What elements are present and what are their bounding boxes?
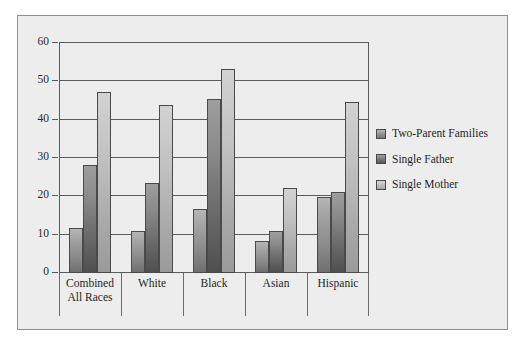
category-axis-labels: CombinedAll RacesWhiteBlackAsianHispanic bbox=[59, 273, 369, 316]
y-tick-20 bbox=[52, 195, 58, 196]
bar bbox=[317, 197, 331, 273]
bar bbox=[193, 209, 207, 273]
category-separator bbox=[59, 273, 60, 316]
category-label: Hispanic bbox=[307, 273, 369, 316]
y-tick-label-30: 30 bbox=[38, 151, 50, 163]
category-separator bbox=[307, 273, 308, 316]
bar-group bbox=[245, 42, 307, 273]
bar bbox=[255, 241, 269, 273]
legend-item[interactable]: Single Mother bbox=[376, 179, 506, 191]
bar bbox=[69, 228, 83, 273]
category-label-line: Black bbox=[183, 277, 245, 291]
y-tick-0 bbox=[52, 272, 58, 273]
bar bbox=[269, 231, 283, 273]
bar-group bbox=[183, 42, 245, 273]
category-label-line: Hispanic bbox=[307, 277, 369, 291]
legend-swatch-icon bbox=[376, 154, 386, 164]
legend-swatch-icon bbox=[376, 180, 386, 190]
legend-item[interactable]: Two-Parent Families bbox=[376, 128, 506, 140]
category-label: CombinedAll Races bbox=[59, 273, 121, 316]
bar-groups bbox=[59, 42, 369, 273]
bar bbox=[83, 165, 97, 273]
category-label-line: Asian bbox=[245, 277, 307, 291]
bar-group bbox=[121, 42, 183, 273]
bar bbox=[159, 105, 173, 273]
bar bbox=[131, 231, 145, 273]
plot-area: 0102030405060 bbox=[59, 42, 369, 273]
category-label: White bbox=[121, 273, 183, 316]
category-label-line: Combined bbox=[59, 277, 121, 291]
category-label: Asian bbox=[245, 273, 307, 316]
bar bbox=[145, 183, 159, 273]
y-tick-40 bbox=[52, 119, 58, 120]
legend-label: Single Father bbox=[392, 154, 454, 166]
y-tick-10 bbox=[52, 234, 58, 235]
y-tick-label-20: 20 bbox=[38, 190, 50, 202]
bar-group bbox=[307, 42, 369, 273]
y-tick-50 bbox=[52, 80, 58, 81]
bar bbox=[331, 192, 345, 273]
category-separator bbox=[121, 273, 122, 316]
y-tick-label-10: 10 bbox=[38, 228, 50, 240]
y-tick-label-40: 40 bbox=[38, 113, 50, 125]
category-separator bbox=[183, 273, 184, 316]
y-tick-label-50: 50 bbox=[38, 75, 50, 87]
chart-panel: 0102030405060 CombinedAll RacesWhiteBlac… bbox=[17, 15, 508, 330]
bar bbox=[345, 102, 359, 273]
legend-label: Single Mother bbox=[392, 179, 458, 191]
chart-screenshot: 0102030405060 CombinedAll RacesWhiteBlac… bbox=[0, 0, 521, 345]
bar bbox=[207, 99, 221, 273]
bar-group bbox=[59, 42, 121, 273]
y-tick-60 bbox=[52, 42, 58, 43]
chart-legend: Two-Parent FamiliesSingle FatherSingle M… bbox=[376, 128, 506, 205]
bar bbox=[221, 69, 235, 273]
legend-item[interactable]: Single Father bbox=[376, 154, 506, 166]
y-tick-label-60: 60 bbox=[38, 36, 50, 48]
category-label-line: White bbox=[121, 277, 183, 291]
y-tick-30 bbox=[52, 157, 58, 158]
legend-label: Two-Parent Families bbox=[392, 128, 488, 140]
bar bbox=[97, 92, 111, 273]
category-separator bbox=[245, 273, 246, 316]
legend-swatch-icon bbox=[376, 129, 386, 139]
y-tick-label-0: 0 bbox=[43, 266, 49, 278]
bar bbox=[283, 188, 297, 273]
category-separator bbox=[368, 273, 369, 316]
category-label-line: All Races bbox=[59, 291, 121, 305]
category-label: Black bbox=[183, 273, 245, 316]
